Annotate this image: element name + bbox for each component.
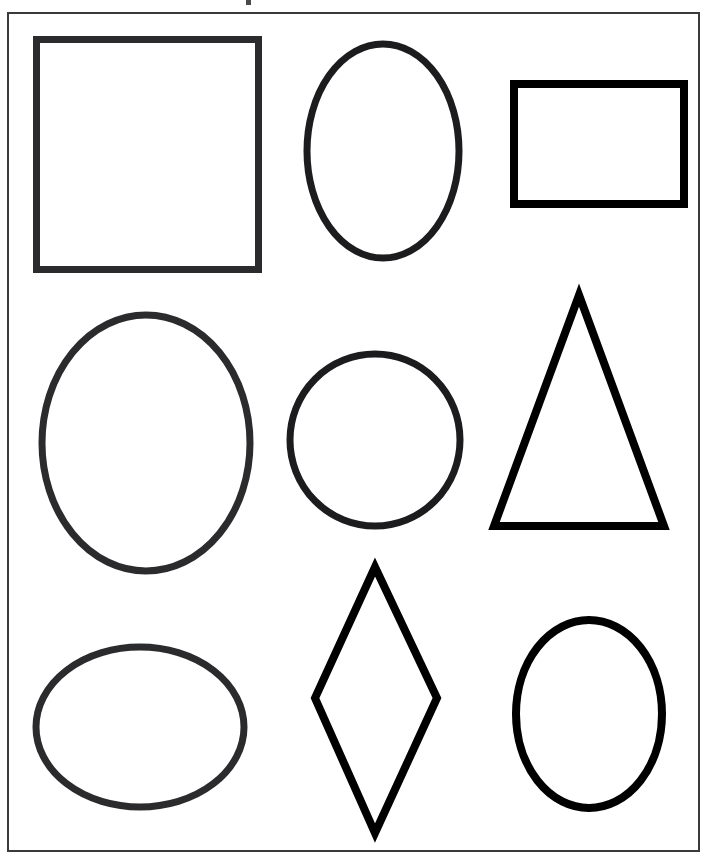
shape-oval-large[interactable] bbox=[35, 299, 279, 587]
shape-triangle[interactable] bbox=[487, 286, 687, 546]
scan-speck-artifact bbox=[246, 0, 251, 5]
shape-rectangle[interactable] bbox=[503, 72, 699, 224]
rectangle-outline bbox=[514, 84, 684, 204]
shape-oval-small[interactable] bbox=[507, 610, 687, 830]
square-outline bbox=[37, 40, 259, 270]
rhombus-outline bbox=[315, 567, 437, 833]
shape-oval-wide[interactable] bbox=[29, 633, 273, 823]
shape-circle[interactable] bbox=[283, 338, 483, 542]
shape-square[interactable] bbox=[33, 36, 265, 276]
worksheet-frame bbox=[7, 12, 700, 852]
oval-large-outline bbox=[42, 315, 250, 571]
oval-wide-outline bbox=[36, 647, 244, 807]
shape-rhombus[interactable] bbox=[307, 558, 459, 856]
shape-oval-tall[interactable] bbox=[299, 32, 481, 276]
oval-small-outline bbox=[516, 620, 662, 808]
circle-outline bbox=[290, 354, 460, 526]
oval-tall-outline bbox=[307, 44, 459, 258]
worksheet-page bbox=[0, 0, 710, 859]
triangle-outline bbox=[494, 295, 664, 526]
